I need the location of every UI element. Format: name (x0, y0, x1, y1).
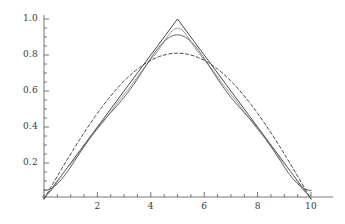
axis-layer (42, 15, 333, 199)
y-axis-tick-label: 0.2 (0, 157, 38, 167)
x-axis-tick-label: 2 (77, 201, 117, 211)
y-axis-tick-label: 1.0 (0, 13, 38, 23)
x-axis-tick-label: 10 (291, 201, 331, 211)
series-fundamental-sine-mode (44, 53, 311, 199)
x-axis-tick-label: 8 (238, 201, 278, 211)
x-axis-tick-label: 4 (131, 201, 171, 211)
plot-canvas (0, 0, 345, 224)
y-axis-tick-label: 0.6 (0, 85, 38, 95)
series-triangle-wave (44, 19, 311, 199)
y-axis-tick-label: 0.4 (0, 121, 38, 131)
y-axis-tick-label: 0.8 (0, 49, 38, 59)
series-layer (44, 19, 311, 199)
x-axis-tick-label: 6 (184, 201, 224, 211)
series-fourier-partial-sum-mid (44, 35, 311, 191)
plot-figure: 2468100.20.40.60.81.0 (0, 0, 345, 224)
